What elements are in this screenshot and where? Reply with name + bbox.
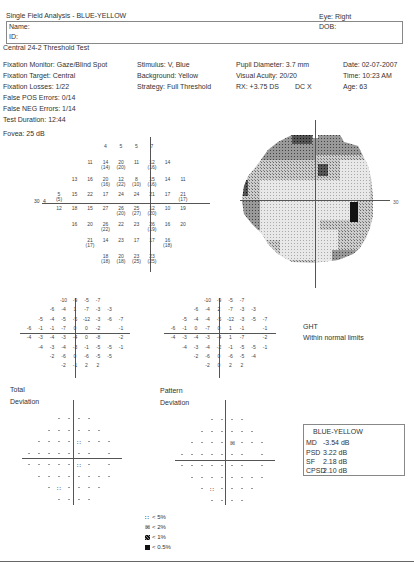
deviation-value: -1 [46, 326, 58, 331]
probability-dot [221, 488, 223, 489]
deviation-value: -4 [190, 317, 202, 322]
deviation-value: 0 [213, 326, 225, 331]
pupil-diameter: Pupil Diameter: 3.7 mm [236, 60, 309, 69]
deviation-value: -1 [35, 326, 47, 331]
deviation-value: -5 [104, 345, 116, 350]
footer-rule [0, 561, 414, 562]
deviation-value: 0 [213, 363, 225, 368]
probability-dot [88, 499, 90, 500]
global-indices-title: BLUE-YELLOW [313, 427, 363, 436]
deviation-value: -5 [104, 354, 116, 359]
deviation-value: -5 [236, 354, 248, 359]
deviation-value: -2 [115, 335, 127, 340]
probability-dot [68, 430, 70, 431]
threshold-value: 20 [176, 222, 190, 227]
threshold-cell: 17 [99, 192, 113, 197]
threshold-value: 11 [176, 177, 190, 182]
threshold-repeat-value: (16) [99, 182, 113, 187]
probability-dot [231, 431, 233, 432]
probability-symbol: ∷ [77, 438, 81, 445]
dc: DC X [295, 82, 312, 91]
probability-dot [191, 442, 193, 443]
deviation-value: 2 [92, 363, 104, 368]
probability-dot [201, 477, 203, 478]
probability-dot [78, 430, 80, 431]
probability-dot [261, 477, 263, 478]
deviation-value: -4 [190, 335, 202, 340]
probability-dot [88, 418, 90, 419]
probability-dot [201, 465, 203, 466]
threshold-cell: 17 [145, 238, 159, 243]
deviation-value: -1 [259, 326, 271, 331]
probability-dot [241, 442, 243, 443]
probability-dot [88, 441, 90, 442]
deviation-value: -4 [23, 335, 35, 340]
deviation-value: -7 [225, 307, 237, 312]
threshold-repeat-value: (18) [99, 259, 113, 264]
threshold-value: 22 [83, 192, 97, 197]
threshold-cell: 20(18) [114, 254, 128, 264]
threshold-value: 24 [114, 192, 128, 197]
probability-dot [201, 454, 203, 455]
threshold-cell: 21(17) [176, 192, 190, 202]
deviation-value: -1 [259, 345, 271, 350]
deviation-value: -1 [236, 326, 248, 331]
rx: RX: +3.75 DS [236, 82, 279, 91]
deviation-value: -1 [225, 345, 237, 350]
deviation-value: -1 [69, 363, 81, 368]
cpsd-value: 2.10 dB [323, 466, 347, 475]
threshold-cell: 20 [176, 222, 190, 227]
patient-age: Age: 63 [343, 82, 367, 91]
threshold-cell: 26(22) [99, 222, 113, 232]
probability-dot [221, 442, 223, 443]
patient-info-box [6, 21, 403, 44]
deviation-value: 1 [69, 307, 81, 312]
threshold-cell: 8(10) [130, 177, 144, 187]
probability-dot [241, 500, 243, 501]
probability-dot [241, 477, 243, 478]
probability-dot [231, 454, 233, 455]
threshold-value: 17 [161, 192, 175, 197]
deviation-value: -3 [202, 335, 214, 340]
threshold-cell: 17 [161, 192, 175, 197]
deviation-value: -9 [69, 298, 81, 303]
deviation-value: 2 [213, 307, 225, 312]
probability-dot [241, 454, 243, 455]
probability-dot [68, 499, 70, 500]
threshold-cell: 14 [161, 177, 175, 182]
deviation-value: -4 [202, 307, 214, 312]
threshold-value: 13 [68, 177, 82, 182]
deviation-value: -3 [190, 345, 202, 350]
pattern-deviation-label-2: Deviation [160, 398, 189, 407]
probability-dot [191, 465, 193, 466]
deviation-value: -7 [58, 326, 70, 331]
probability-dot [231, 465, 233, 466]
threshold-cell: 15(16) [145, 177, 159, 187]
threshold-cell: 26(20) [114, 206, 128, 216]
deviation-value: -4 [46, 335, 58, 340]
deviation-value: -7 [92, 298, 104, 303]
threshold-cell: 24 [114, 192, 128, 197]
deviation-value: -2 [58, 363, 70, 368]
threshold-value: 11 [130, 160, 144, 165]
legend-2pct: < 2% [152, 524, 166, 531]
threshold-cell: 17 [130, 238, 144, 243]
deviation-value: 1 [225, 326, 237, 331]
deviation-value: 0 [69, 354, 81, 359]
threshold-repeat-value: (22) [114, 182, 128, 187]
deviation-value: -4 [35, 345, 47, 350]
threshold-cell: 21(17) [83, 238, 97, 248]
deviation-value: -5 [81, 298, 93, 303]
threshold-cell: 11 [130, 160, 144, 165]
probability-dot [68, 441, 70, 442]
grayscale-map: 30 [240, 120, 410, 290]
deviation-value: -2 [213, 345, 225, 350]
probability-dot [231, 477, 233, 478]
probability-dot [241, 465, 243, 466]
probability-dot [251, 442, 253, 443]
deviation-value: -7 [259, 317, 271, 322]
deviation-value: -6 [23, 326, 35, 331]
report-title: Single Field Analysis - BLUE-YELLOW [6, 11, 126, 20]
threshold-value: 23 [130, 222, 144, 227]
threshold-cell: 19 [176, 206, 190, 211]
